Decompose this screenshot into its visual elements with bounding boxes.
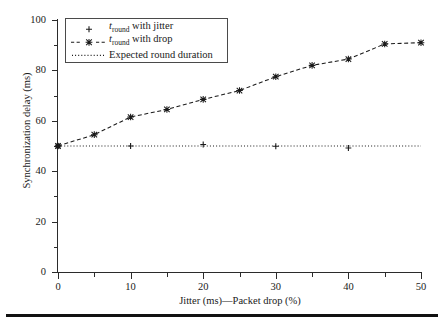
legend-symbol-sub-2: round [112, 39, 130, 48]
legend-suffix-2: with drop [129, 33, 172, 44]
chart-figure: Synchronization delay (ms) 020406080100 … [0, 0, 444, 327]
x-axis-label: Jitter (ms)—Packet drop (%) [58, 295, 422, 306]
legend: tround with jitter tround with drop [65, 18, 228, 63]
plus-marker-icon [69, 22, 109, 35]
dotted-line-icon [69, 48, 109, 61]
legend-suffix-3: Expected round duration [109, 49, 213, 60]
legend-suffix: with jitter [129, 20, 173, 31]
legend-label-drop: tround with drop [109, 33, 173, 49]
page-rule [6, 314, 438, 317]
legend-item-expected: Expected round duration [66, 48, 227, 61]
legend-label-expected: Expected round duration [109, 49, 213, 61]
legend-item-drop: tround with drop [66, 35, 227, 48]
dashed-x-marker-icon [69, 35, 109, 48]
